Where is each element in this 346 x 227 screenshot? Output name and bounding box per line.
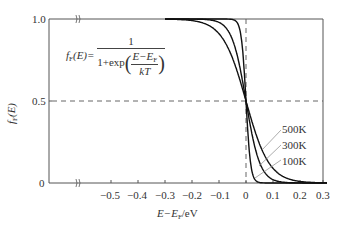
y-tick-label: 0 (39, 178, 45, 189)
x-tick-label: 0.1 (266, 190, 280, 201)
legend-500k: 500K (282, 124, 306, 135)
x-tick-label: 0.3 (316, 190, 330, 201)
legend-leaders (255, 130, 281, 178)
y-axis-label: fF(E) (6, 103, 21, 124)
y-tick-label: 1.0 (32, 14, 46, 25)
legend-100k: 100K (282, 156, 306, 167)
formula-fraction: 1 1+exp(E−EFkT) (97, 35, 165, 77)
x-tick-label: −0.4 (127, 190, 147, 201)
fermi-dirac-formula: fF(E)= 1 1+exp(E−EFkT) (66, 35, 165, 77)
x-axis-label: E−EF/eV (157, 208, 198, 223)
legend-300k: 300K (282, 140, 306, 151)
x-tick-label: −0.1 (210, 190, 230, 201)
y-tick-label: 0.5 (32, 96, 46, 107)
x-tick-label: 0 (243, 190, 249, 201)
x-tick-label: −0.5 (100, 190, 120, 201)
x-tick-label: 0.2 (293, 190, 307, 201)
x-tick-label: −0.3 (155, 190, 175, 201)
x-tick-label: −0.2 (182, 190, 202, 201)
